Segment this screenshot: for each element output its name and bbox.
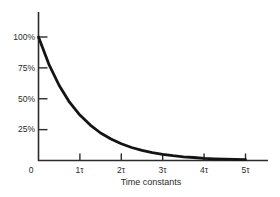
x-tick-label-5t: 5τ (235, 165, 257, 175)
decay-chart: 100% 75% 50% 25% 0 1τ 2τ 3τ 4τ 5τ Time c… (0, 0, 280, 197)
x-tick-label-4t: 4τ (193, 165, 215, 175)
y-tick-label-100: 100% (0, 32, 35, 42)
x-tick-label-3t: 3τ (152, 165, 174, 175)
x-tick-label-2t: 2τ (110, 165, 132, 175)
decay-curve (39, 37, 246, 160)
y-tick-label-50: 50% (0, 94, 35, 104)
x-tick-label-0: 0 (20, 165, 42, 175)
x-axis-title: Time constants (91, 177, 211, 188)
y-tick-label-25: 25% (0, 124, 35, 134)
y-tick-label-75: 75% (0, 63, 35, 73)
x-tick-label-1t: 1τ (69, 165, 91, 175)
